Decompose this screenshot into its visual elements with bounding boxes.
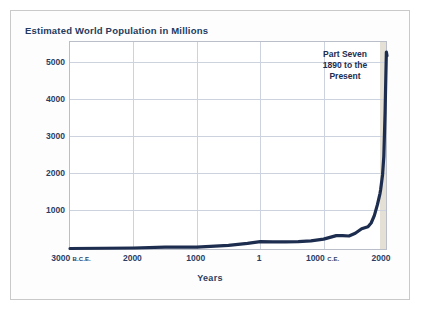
y-tick-4000: 4000 [46,94,65,104]
annotation-line-1: Part Seven [297,49,393,60]
annotation-line-3: Present [297,71,393,82]
y-tick-2000: 2000 [46,168,65,178]
y-tick-5000: 5000 [46,57,65,67]
x-tick-3000-bce: 3000 B.C.E. [51,253,91,263]
y-tick-3000: 3000 [46,131,65,141]
x-tick-1000-bce: 1000 [186,253,205,263]
annotation-line-2: 1890 to the [297,60,393,71]
x-axis-title: Years [11,273,409,283]
x-axis-tick-labels: 3000 B.C.E. 2000 1000 1 1000 C.E. 2000 [69,253,387,267]
x-tick-2000-ce: 2000 [372,253,391,263]
y-axis-tick-labels: 5000 4000 3000 2000 1000 [19,41,65,249]
y-tick-1000: 1000 [46,205,65,215]
chart-figure: Estimated World Population in Millions 5… [10,10,410,300]
part-seven-annotation: Part Seven 1890 to the Present [297,49,393,82]
x-tick-year-1: 1 [257,253,262,263]
chart-title: Estimated World Population in Millions [25,25,208,36]
x-tick-2000-bce: 2000 [123,253,142,263]
x-tick-1000-ce: 1000 C.E. [306,253,339,263]
